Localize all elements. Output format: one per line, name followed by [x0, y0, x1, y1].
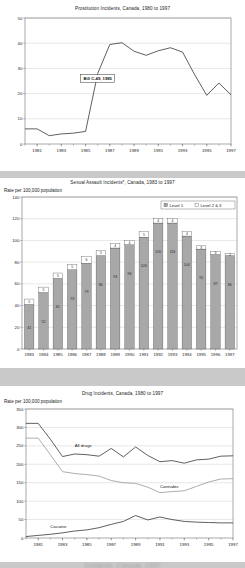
svg-text:1995: 1995 — [202, 147, 212, 152]
svg-text:5: 5 — [71, 265, 73, 269]
svg-text:4: 4 — [157, 219, 159, 223]
svg-text:4: 4 — [172, 219, 174, 223]
svg-text:1993: 1993 — [180, 542, 190, 547]
svg-text:1984: 1984 — [39, 352, 49, 357]
svg-text:1987: 1987 — [105, 147, 115, 152]
y-axis-caption-drug-incidents: Rate per 100,000 population — [0, 397, 245, 405]
svg-text:1997: 1997 — [226, 147, 236, 152]
chart-svg-prostitution: 0102030405019811983198519871989199119931… — [0, 12, 245, 162]
y-axis-caption-sexual-assault: Rate per 100,000 population — [0, 186, 245, 194]
svg-text:200: 200 — [16, 462, 24, 467]
svg-text:6: 6 — [86, 258, 88, 262]
svg-text:40: 40 — [15, 303, 20, 308]
svg-text:140: 140 — [12, 195, 20, 200]
svg-text:1995: 1995 — [196, 352, 206, 357]
svg-text:1991: 1991 — [139, 352, 149, 357]
footer-caption: Incidents, Canada, 1997 — [0, 562, 245, 568]
svg-text:93: 93 — [113, 275, 117, 279]
panel-divider-2 — [0, 368, 245, 386]
svg-text:1983: 1983 — [24, 352, 34, 357]
svg-text:1989: 1989 — [129, 147, 139, 152]
report-page: Prostitution Incidents, Canada, 1980 to … — [0, 0, 245, 568]
chart-svg-drug-incidents: 0501001502002503003501981198319851987198… — [0, 404, 245, 556]
svg-text:20: 20 — [15, 325, 20, 330]
svg-text:Level 1: Level 1 — [170, 203, 184, 208]
svg-text:100: 100 — [12, 238, 20, 243]
svg-text:1991: 1991 — [154, 147, 164, 152]
svg-text:116: 116 — [170, 250, 176, 254]
svg-text:1989: 1989 — [110, 352, 120, 357]
svg-text:5: 5 — [43, 288, 45, 292]
chart-title-sexual-assault: Sexual Assault Incidents*, Canada, 1983 … — [0, 178, 245, 186]
svg-text:3: 3 — [215, 251, 217, 255]
svg-text:80: 80 — [15, 260, 20, 265]
chart-panel-drug-incidents: Drug Incidents, Canada, 1980 to 1997 Rat… — [0, 386, 245, 562]
svg-text:1997: 1997 — [225, 352, 235, 357]
svg-text:5: 5 — [28, 300, 30, 304]
svg-text:4: 4 — [114, 244, 116, 248]
svg-text:0: 0 — [21, 536, 24, 541]
svg-text:40: 40 — [18, 40, 23, 45]
svg-text:1992: 1992 — [153, 352, 163, 357]
svg-text:1993: 1993 — [168, 352, 178, 357]
chart-title-drug-incidents: Drug Incidents, Canada, 1980 to 1997 — [0, 386, 245, 397]
svg-text:1986: 1986 — [67, 352, 77, 357]
svg-text:120: 120 — [12, 216, 20, 221]
svg-text:1985: 1985 — [82, 542, 92, 547]
svg-text:87: 87 — [214, 282, 218, 286]
svg-text:4: 4 — [186, 232, 188, 236]
svg-text:10: 10 — [18, 116, 23, 121]
svg-text:65: 65 — [56, 306, 60, 310]
svg-text:92: 92 — [199, 276, 203, 280]
svg-text:350: 350 — [16, 407, 24, 412]
chart-title-prostitution: Prostitution Incidents, Canada, 1980 to … — [0, 0, 245, 12]
chart-panel-prostitution: Prostitution Incidents, Canada, 1980 to … — [0, 0, 245, 171]
svg-text:1985: 1985 — [53, 352, 63, 357]
svg-text:86: 86 — [99, 283, 103, 287]
svg-text:41: 41 — [27, 326, 31, 330]
svg-text:116: 116 — [155, 250, 161, 254]
svg-text:250: 250 — [16, 444, 24, 449]
svg-text:96: 96 — [128, 272, 132, 276]
svg-text:1991: 1991 — [155, 542, 165, 547]
svg-text:52: 52 — [42, 320, 46, 324]
svg-text:104: 104 — [184, 263, 190, 267]
svg-text:1983: 1983 — [58, 542, 68, 547]
svg-text:73: 73 — [70, 297, 74, 301]
svg-text:Bill C-49, 1985: Bill C-49, 1985 — [84, 76, 113, 81]
svg-text:5: 5 — [100, 251, 102, 255]
svg-text:5: 5 — [143, 233, 145, 237]
svg-text:1993: 1993 — [178, 147, 188, 152]
svg-text:1990: 1990 — [125, 352, 135, 357]
svg-text:4: 4 — [129, 241, 131, 245]
svg-text:1996: 1996 — [211, 352, 221, 357]
svg-text:1995: 1995 — [204, 542, 214, 547]
svg-text:1994: 1994 — [182, 352, 192, 357]
svg-text:1987: 1987 — [82, 352, 92, 357]
svg-text:20: 20 — [18, 91, 23, 96]
svg-text:1983: 1983 — [57, 147, 67, 152]
svg-text:3: 3 — [200, 246, 202, 250]
svg-text:0: 0 — [17, 347, 20, 352]
svg-text:50: 50 — [18, 15, 23, 20]
svg-text:1985: 1985 — [81, 147, 91, 152]
svg-text:Level 2 & 3: Level 2 & 3 — [201, 203, 223, 208]
svg-text:All drugs: All drugs — [75, 443, 93, 448]
svg-text:1987: 1987 — [106, 542, 116, 547]
svg-text:30: 30 — [18, 65, 23, 70]
panel-divider-1 — [0, 171, 245, 178]
svg-text:0: 0 — [20, 141, 23, 146]
chart-panel-sexual-assault: Sexual Assault Incidents*, Canada, 1983 … — [0, 178, 245, 368]
svg-text:5: 5 — [57, 274, 59, 278]
svg-text:300: 300 — [16, 425, 24, 430]
svg-text:100: 100 — [16, 499, 24, 504]
chart-svg-sexual-assault: 0204060801001201404151983525198465519857… — [0, 193, 245, 365]
svg-text:1997: 1997 — [228, 542, 238, 547]
svg-text:103: 103 — [141, 264, 147, 268]
svg-text:79: 79 — [85, 290, 89, 294]
svg-text:150: 150 — [16, 480, 24, 485]
svg-text:1988: 1988 — [96, 352, 106, 357]
svg-text:50: 50 — [19, 517, 24, 522]
svg-text:Cannabis: Cannabis — [160, 484, 179, 489]
svg-text:1981: 1981 — [32, 147, 42, 152]
